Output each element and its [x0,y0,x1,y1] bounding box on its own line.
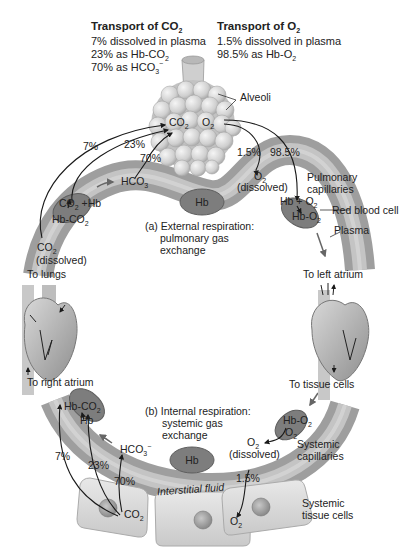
pct-70-bottom: 70% [114,475,135,487]
o2-transport-line: 1.5% dissolved in plasma [217,35,341,48]
hb-bottom-left-label: Hb [80,414,93,426]
to-left-atrium-label: To left atrium [303,268,363,280]
flow-arrow-icon [317,233,325,256]
o2-transport-title: Transport of O2 [217,20,300,33]
to-tissue-cells-label: To tissue cells [289,378,354,390]
hb-label-top: Hb [194,196,210,208]
hco3-top: HCO3 [121,175,148,187]
co2-transport-title: Transport of CO2 [91,20,182,33]
pct-70-top: 70% [140,152,161,164]
pct-98-5-top: 98.5% [270,146,300,158]
systemic-tissue-cells-label: Systemictissue cells [302,497,353,521]
hb-co2-top-label: Hb-CO2 [52,213,89,225]
co2-transport-line: 70% as HCO3− [91,61,163,74]
flow-arrow-icon [310,393,318,405]
co2-dissolved-top: CO2 [37,241,57,253]
pulmonary-capillaries-label: Pulmonarycapillaries [307,171,357,195]
o2-dissolved-bottom: O2 [247,436,259,448]
systemic-capillaries-label: Systemiccapillaries [297,438,344,462]
hb-label-bottom: Hb [183,454,201,466]
internal-respiration-label: (b) Internal respiration: systemic gas e… [145,405,251,441]
hb-o2-bottom-label: Hb-O2 [283,414,312,426]
co2-plus-hb-label: CO2 +Hb [59,197,101,209]
pct-23-top: 23% [124,138,145,150]
dissolved-label: (dissolved) [237,181,288,193]
hco3-bottom: HCO3− [120,443,151,455]
pct-7-top: 7% [83,140,98,152]
tissue-co2-label: CO2 [124,508,144,520]
hb-o2-top-label: Hb-O2 [292,210,321,222]
o2-in-rbc-bottom: O2 [285,426,297,438]
o2-transport-line: 98.5% as Hb-O2 [217,48,296,61]
co2-transport-line: 23% as Hb-CO2 [91,48,169,61]
dissolved-label: (dissolved) [229,448,280,460]
alveoli-o2-label: O2 [202,116,214,128]
tissue-o2-label: O2 [230,515,242,527]
pct-1-5-bottom: 1.5% [236,472,260,484]
co2-transport-line: 7% dissolved in plasma [91,35,206,48]
hb-plus-o2-label: Hb + O2 [280,195,317,207]
alveoli-label: Alveoli [240,91,271,103]
hb-co2-bottom-label: Hb-CO2 [64,400,101,412]
pct-1-5-top: 1.5% [237,146,261,158]
plasma-label: Plasma [334,224,369,236]
alveoli-co2-label: CO2 [169,116,189,128]
pct-23-bottom: 23% [88,459,109,471]
red-blood-cell-label: Red blood cell [332,204,399,216]
to-lungs-label: To lungs [27,268,66,280]
external-respiration-label: (a) External respiration: pulmonary gas … [145,220,254,256]
pct-7-bottom: 7% [55,450,70,462]
to-right-atrium-label: To right atrium [27,376,94,388]
alveoli-cluster [149,56,241,176]
dissolved-label: (dissolved) [36,254,87,266]
